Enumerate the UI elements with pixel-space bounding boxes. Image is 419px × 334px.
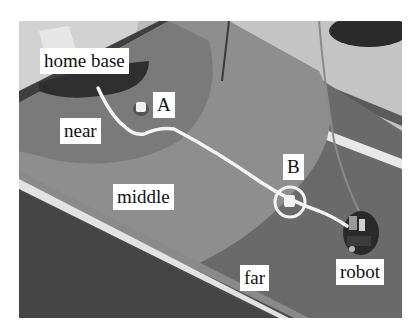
- label-far: far: [240, 265, 269, 291]
- label-landmark-a: A: [153, 92, 175, 118]
- label-middle: middle: [113, 184, 174, 210]
- label-near: near: [60, 118, 101, 144]
- label-robot: robot: [336, 259, 384, 285]
- label-landmark-b: B: [283, 154, 304, 180]
- label-home-base: home base: [40, 48, 129, 74]
